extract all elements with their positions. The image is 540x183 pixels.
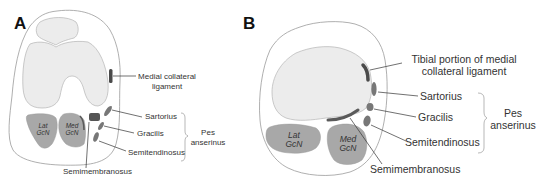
panel-a-sartorius-label: Sartorius	[145, 112, 177, 121]
panel-a-semimembranosus-label: Semimembranosus	[63, 167, 132, 176]
panel-b-pes-line2: anserinus	[487, 119, 539, 131]
knee-cross-section-figure: A Medial collateral ligament Sartorius G…	[0, 0, 540, 183]
panel-b-med-gcn-line2: GcN	[336, 144, 360, 153]
panel-a-mcl	[109, 69, 113, 83]
panel-b-letter: B	[243, 14, 255, 34]
panel-b-mcl-label-line2: collateral ligament	[394, 65, 534, 77]
panel-a-pes-anserinus-label: Pes anserinus	[188, 128, 228, 148]
panel-b-gracilis-label: Gracilis	[418, 111, 453, 123]
panel-b-mcl-label-line1: Tibial portion of medial	[394, 53, 534, 65]
panel-b-lat-gcn-label: Lat GcN	[282, 131, 306, 149]
panel-a-med-gcn-line2: GcN	[62, 130, 82, 137]
panel-a-mcl-label-line1: Medial collateral	[136, 72, 198, 82]
panel-b-gracilis	[367, 103, 374, 111]
panel-a-gracilis-label: Gracilis	[137, 129, 164, 138]
panel-a-semitendinosus-label: Semitendinosus	[128, 148, 185, 157]
panel-b-pes-line1: Pes	[487, 107, 539, 119]
panel-a-lat-gcn-line2: GcN	[33, 130, 53, 137]
panel-b-sartorius-label: Sartorius	[420, 90, 462, 102]
panel-a-med-gcn-label: Med GcN	[62, 123, 82, 137]
panel-a-pes-line1: Pes	[188, 128, 228, 138]
panel-b-semitendinosus-label: Semitendinosus	[405, 136, 480, 148]
panel-a-pes-line2: anserinus	[188, 138, 228, 148]
panel-a-mcl-label-line2: ligament	[136, 82, 198, 92]
panel-b-mcl-label: Tibial portion of medial collateral liga…	[394, 53, 534, 77]
panel-a-letter: A	[14, 14, 26, 34]
panel-b-lat-gcn-line2: GcN	[282, 140, 306, 149]
panel-b-sartorius	[371, 82, 376, 96]
panel-a-lat-gcn-label: Lat GcN	[33, 123, 53, 137]
panel-b-pes-anserinus-label: Pes anserinus	[487, 107, 539, 131]
panel-b-semimembranosus-label: Semimembranosus	[370, 163, 460, 175]
panel-b-med-gcn-label: Med GcN	[336, 135, 360, 153]
panel-a-mcl-label: Medial collateral ligament	[136, 72, 198, 92]
panel-a-semimembranosus	[89, 113, 100, 121]
